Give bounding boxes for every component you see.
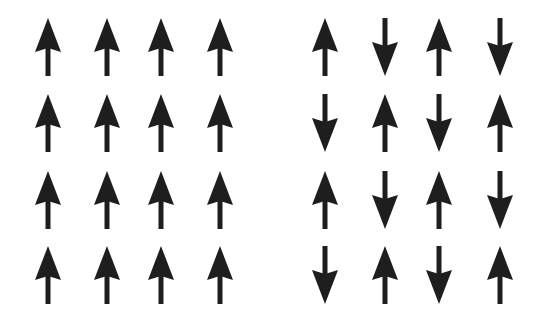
arrow-up-icon — [424, 171, 454, 229]
arrow-up-icon — [92, 171, 122, 229]
arrow-up-icon — [370, 94, 400, 152]
arrow-up-icon — [205, 171, 235, 229]
arrow-up-icon — [146, 94, 176, 152]
antiferromagnetic-spin-grid — [274, 0, 548, 322]
arrow-up-icon — [205, 18, 235, 76]
arrow-up-icon — [146, 18, 176, 76]
arrow-up-icon — [92, 246, 122, 304]
arrow-up-icon — [33, 171, 63, 229]
arrow-up-icon — [205, 94, 235, 152]
arrow-down-icon — [310, 94, 340, 152]
arrow-up-icon — [485, 246, 515, 304]
arrow-up-icon — [33, 94, 63, 152]
arrow-up-icon — [92, 94, 122, 152]
arrow-down-icon — [424, 246, 454, 304]
arrow-up-icon — [33, 246, 63, 304]
ferromagnetic-spin-grid — [0, 0, 274, 322]
arrow-down-icon — [485, 18, 515, 76]
arrow-up-icon — [205, 246, 235, 304]
arrow-down-icon — [370, 18, 400, 76]
arrow-up-icon — [424, 18, 454, 76]
arrow-down-icon — [310, 246, 340, 304]
arrow-down-icon — [485, 171, 515, 229]
arrow-up-icon — [310, 18, 340, 76]
arrow-up-icon — [370, 246, 400, 304]
arrow-up-icon — [92, 18, 122, 76]
arrow-up-icon — [310, 171, 340, 229]
arrow-up-icon — [146, 171, 176, 229]
arrow-up-icon — [33, 18, 63, 76]
arrow-up-icon — [146, 246, 176, 304]
arrow-down-icon — [370, 171, 400, 229]
arrow-down-icon — [424, 94, 454, 152]
arrow-up-icon — [485, 94, 515, 152]
